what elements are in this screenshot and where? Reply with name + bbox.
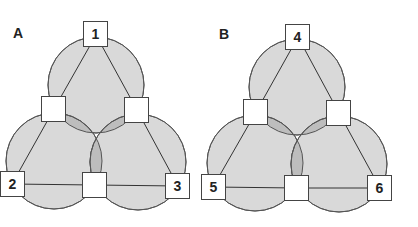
node-left: 5 bbox=[201, 174, 226, 200]
node-right: 3 bbox=[165, 173, 190, 199]
node-mid-right bbox=[124, 97, 149, 123]
node-top: 4 bbox=[285, 24, 310, 50]
node-left: 2 bbox=[0, 171, 25, 197]
node-mid-bottom bbox=[82, 172, 107, 198]
node-mid-right bbox=[326, 100, 351, 126]
panel-a: A 1 2 3 bbox=[0, 0, 209, 227]
panel-b: B 4 5 6 bbox=[201, 0, 410, 227]
node-mid-bottom bbox=[284, 175, 309, 201]
node-mid-left bbox=[243, 99, 268, 125]
panel-label: B bbox=[219, 26, 229, 42]
node-mid-left bbox=[41, 96, 66, 122]
node-right: 6 bbox=[367, 175, 392, 201]
node-top: 1 bbox=[83, 21, 108, 47]
panel-label: A bbox=[13, 25, 23, 41]
